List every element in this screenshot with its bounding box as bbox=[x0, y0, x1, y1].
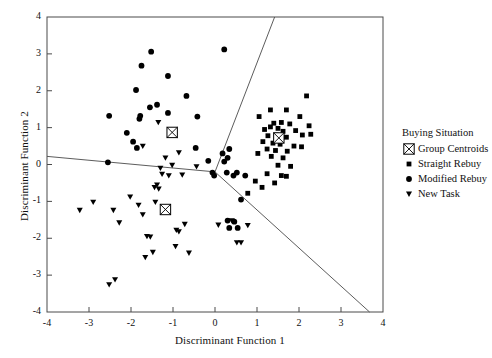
legend-item-label: Group Centroids bbox=[418, 143, 488, 154]
data-point bbox=[262, 127, 267, 132]
legend-item-new-task[interactable]: New Task bbox=[402, 186, 492, 201]
legend-glyph bbox=[406, 191, 412, 196]
data-point bbox=[238, 197, 244, 203]
data-point bbox=[304, 94, 309, 99]
data-point bbox=[106, 113, 112, 119]
legend-item-label: Straight Rebuy bbox=[418, 158, 481, 169]
legend-item-group-centroids[interactable]: Group Centroids bbox=[402, 141, 492, 156]
data-point bbox=[116, 220, 122, 225]
crossed-square-icon bbox=[402, 143, 416, 155]
x-tick-label: -1 bbox=[163, 317, 183, 328]
axis-ticks bbox=[47, 54, 341, 312]
classification-boundaries bbox=[47, 17, 370, 312]
data-point bbox=[260, 185, 265, 190]
data-point bbox=[245, 191, 250, 196]
data-point bbox=[268, 108, 273, 113]
data-point bbox=[193, 145, 199, 151]
legend: Buying Situation Group CentroidsStraight… bbox=[402, 127, 492, 201]
data-point bbox=[297, 114, 302, 119]
data-point bbox=[253, 179, 258, 184]
data-point bbox=[308, 132, 313, 137]
data-point bbox=[279, 173, 284, 178]
data-point bbox=[105, 159, 111, 165]
data-point bbox=[77, 208, 83, 213]
data-point bbox=[90, 200, 96, 205]
series-straight-rebuy bbox=[245, 94, 313, 196]
data-point bbox=[157, 166, 163, 171]
data-point bbox=[194, 114, 200, 120]
y-tick-label: 1 bbox=[21, 121, 41, 132]
legend-marker-glyph bbox=[407, 161, 412, 166]
data-point bbox=[276, 126, 281, 131]
data-point bbox=[139, 63, 145, 69]
data-point bbox=[155, 120, 161, 125]
data-point bbox=[224, 170, 230, 176]
data-point bbox=[299, 144, 304, 149]
data-point bbox=[184, 93, 190, 99]
y-tick-label: -3 bbox=[21, 268, 41, 279]
legend-item-straight-rebuy[interactable]: Straight Rebuy bbox=[402, 156, 492, 171]
data-point bbox=[134, 145, 140, 151]
series-group-centroids bbox=[160, 127, 284, 214]
y-tick-label: -2 bbox=[21, 231, 41, 242]
y-tick-label: 4 bbox=[21, 10, 41, 21]
y-tick-label: 2 bbox=[21, 84, 41, 95]
data-point bbox=[173, 244, 179, 249]
data-point bbox=[273, 148, 278, 153]
data-point bbox=[124, 130, 130, 136]
data-point bbox=[257, 114, 262, 119]
data-point bbox=[215, 223, 221, 228]
triangle-down-icon bbox=[402, 188, 416, 200]
data-point bbox=[112, 277, 118, 282]
data-point bbox=[152, 200, 158, 205]
data-point bbox=[211, 173, 217, 179]
data-point bbox=[272, 181, 277, 186]
legend-title: Buying Situation bbox=[402, 127, 492, 138]
data-point bbox=[221, 47, 227, 53]
legend-item-modified-rebuy[interactable]: Modified Rebuy bbox=[402, 171, 492, 186]
data-point bbox=[279, 120, 284, 125]
data-point bbox=[154, 102, 160, 108]
legend-glyph bbox=[406, 176, 412, 182]
y-tick-label: -1 bbox=[21, 194, 41, 205]
data-point bbox=[288, 164, 293, 169]
data-point bbox=[148, 49, 154, 55]
x-axis-title: Discriminant Function 1 bbox=[130, 334, 330, 346]
data-point bbox=[165, 73, 171, 79]
data-point bbox=[220, 151, 226, 157]
data-point bbox=[182, 222, 188, 227]
data-point bbox=[165, 110, 171, 116]
data-point bbox=[266, 133, 271, 138]
data-point bbox=[156, 186, 162, 191]
data-point bbox=[226, 146, 232, 152]
data-point bbox=[166, 173, 172, 178]
data-point bbox=[226, 225, 232, 231]
data-point bbox=[281, 155, 286, 160]
data-point bbox=[140, 144, 146, 149]
x-tick-label: -4 bbox=[37, 317, 57, 328]
data-point bbox=[137, 116, 143, 122]
x-tick-label: -2 bbox=[121, 317, 141, 328]
data-point bbox=[176, 150, 182, 155]
y-tick-label: 0 bbox=[21, 158, 41, 169]
data-point bbox=[284, 174, 289, 179]
data-point bbox=[300, 133, 305, 138]
data-point bbox=[292, 144, 297, 149]
data-point bbox=[269, 154, 274, 159]
data-point bbox=[293, 128, 298, 133]
data-point bbox=[234, 240, 240, 245]
series-modified-rebuy bbox=[105, 47, 248, 231]
data-point bbox=[307, 123, 312, 128]
legend-glyph bbox=[407, 161, 412, 166]
data-point bbox=[150, 250, 156, 255]
data-point bbox=[140, 212, 146, 217]
data-point bbox=[205, 158, 211, 164]
data-point bbox=[159, 172, 165, 177]
data-point bbox=[194, 164, 200, 169]
legend-item-label: New Task bbox=[418, 188, 460, 199]
data-point bbox=[285, 149, 290, 154]
legend-item-label: Modified Rebuy bbox=[418, 173, 487, 184]
data-point bbox=[268, 124, 273, 129]
x-tick-label: 0 bbox=[205, 317, 225, 328]
data-point bbox=[130, 139, 136, 145]
